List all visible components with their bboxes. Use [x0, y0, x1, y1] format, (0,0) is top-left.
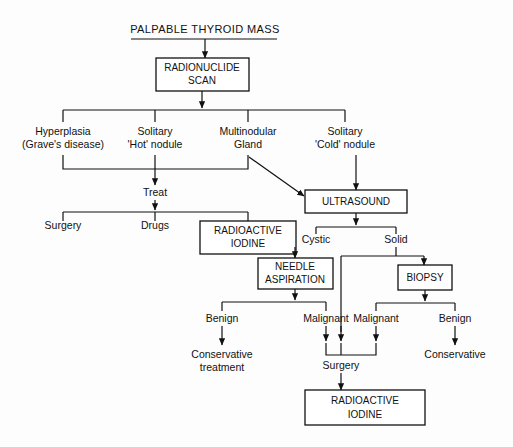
radioiodine-top-line2: IODINE [231, 238, 266, 249]
node-treat: Treat [143, 186, 167, 198]
node-conservative-right: Conservative [424, 348, 485, 360]
node-conservative-treatment-line1: Conservative [191, 348, 252, 360]
node-benign-left: Benign [206, 312, 239, 324]
node-solid: Solid [384, 233, 408, 245]
node-conservative-treatment-line2: treatment [200, 361, 244, 373]
node-hyperplasia-line1: Hyperplasia [35, 125, 91, 137]
radionuclide-scan-label-line2: SCAN [188, 75, 216, 86]
radioiodine-bottom-line1: RADIOACTIVE [331, 395, 399, 406]
node-multinodular-line2: Gland [234, 138, 262, 150]
node-solitary-hot-line2: 'Hot' nodule [128, 138, 183, 150]
node-benign-right: Benign [439, 312, 472, 324]
surgery-merge-bus [326, 343, 376, 355]
node-hyperplasia-line2: (Grave's disease) [22, 138, 104, 150]
needle-aspiration-line1: NEEDLE [275, 261, 315, 272]
node-solitary-hot-line1: Solitary [137, 125, 173, 137]
node-surgery-left: Surgery [45, 219, 83, 231]
node-solitary-cold-line2: 'Cold' nodule [315, 138, 375, 150]
thyroid-mass-flowchart: PALPABLE THYROID MASS RADIONUCLIDE SCAN … [0, 0, 513, 447]
node-surgery-bottom: Surgery [323, 359, 361, 371]
node-multinodular-line1: Multinodular [219, 125, 277, 137]
node-drugs: Drugs [141, 219, 169, 231]
edge-multinodular-to-ultrasound [249, 157, 304, 196]
node-malignant-left: Malignant [303, 312, 349, 324]
node-cystic: Cystic [302, 233, 331, 245]
page-title: PALPABLE THYROID MASS [130, 23, 280, 35]
ultrasound-label: ULTRASOUND [322, 196, 390, 207]
radioiodine-top-line1: RADIOACTIVE [214, 225, 282, 236]
radionuclide-scan-label-line1: RADIONUCLIDE [164, 62, 240, 73]
needle-aspiration-line2: ASPIRATION [265, 274, 325, 285]
node-solitary-cold-line1: Solitary [327, 125, 363, 137]
biopsy-label: BIOPSY [406, 272, 444, 283]
radioiodine-bottom-line2: IODINE [348, 409, 383, 420]
node-malignant-right: Malignant [353, 312, 399, 324]
